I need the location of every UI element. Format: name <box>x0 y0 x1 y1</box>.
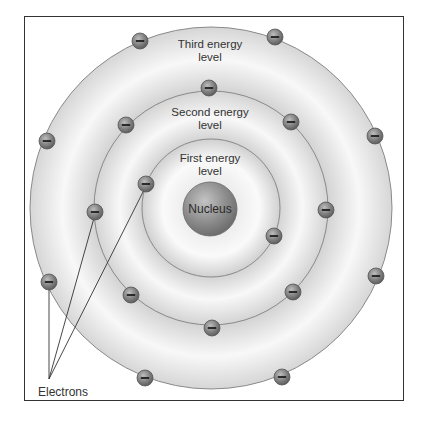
electron-icon <box>41 274 57 290</box>
first-level-label-line1: First energy <box>160 152 260 165</box>
third-level-label-line1: Third energy <box>160 38 260 51</box>
electron-icon <box>138 176 154 192</box>
electron-icon <box>285 284 301 300</box>
electron-icon <box>137 370 153 386</box>
second-level-label-line1: Second energy <box>155 106 265 119</box>
electron-icon <box>318 202 334 218</box>
electron-icon <box>266 228 282 244</box>
second-level-label-line2: level <box>155 119 265 132</box>
electron-icon <box>39 133 55 149</box>
electron-icon <box>367 128 383 144</box>
electron-icon <box>87 204 103 220</box>
third-level-label-line2: level <box>160 51 260 64</box>
first-energy-level-label: First energy level <box>160 152 260 178</box>
electron-icon <box>118 117 134 133</box>
nucleus-label: Nucleus <box>180 202 240 216</box>
second-energy-level-label: Second energy level <box>155 106 265 132</box>
electron-icon <box>201 80 217 96</box>
electrons-label: Electrons <box>38 385 88 399</box>
electron-icon <box>123 287 139 303</box>
electron-icon <box>204 320 220 336</box>
electron-icon <box>132 33 148 49</box>
first-level-label-line2: level <box>160 165 260 178</box>
electron-icon <box>368 268 384 284</box>
electron-icon <box>267 29 283 45</box>
electron-icon <box>274 369 290 385</box>
third-energy-level-label: Third energy level <box>160 38 260 64</box>
electron-icon <box>283 114 299 130</box>
